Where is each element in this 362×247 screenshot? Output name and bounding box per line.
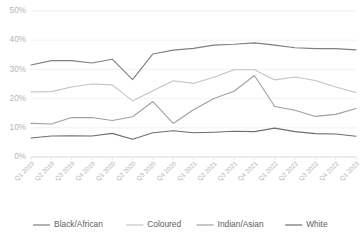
legend-label-indian-asian[interactable]: Indian/Asian xyxy=(218,219,264,229)
gridlines xyxy=(31,11,356,157)
x-axis-tick-label: Q1 2020 xyxy=(94,159,117,182)
x-axis-tick-label: Q3 2020 xyxy=(135,159,158,182)
y-axis-tick-label: 30% xyxy=(10,65,26,74)
y-axis-tick-label: 20% xyxy=(10,94,26,103)
x-axis-tick-label: Q4 2020 xyxy=(155,159,178,182)
x-axis-tick-label: Q2 2022 xyxy=(277,159,300,182)
legend-label-white[interactable]: White xyxy=(306,219,328,229)
chart-legend: Black/AfricanColouredIndian/AsianWhite xyxy=(33,219,328,229)
x-axis-tick-label: Q3 2019 xyxy=(54,159,77,182)
y-axis-tick-label: 50% xyxy=(10,6,26,15)
series-line-white xyxy=(31,128,356,139)
series-line-black-african xyxy=(31,43,356,80)
legend-label-coloured[interactable]: Coloured xyxy=(147,219,181,229)
y-axis-tick-labels: 0%10%20%30%40%50% xyxy=(10,6,26,161)
x-axis-tick-label: Q2 2021 xyxy=(196,159,219,182)
y-axis-tick-label: 10% xyxy=(10,123,26,132)
x-axis-tick-label: Q1 2021 xyxy=(175,159,198,182)
x-axis-tick-label: Q4 2019 xyxy=(74,159,97,182)
chart-canvas: 0%10%20%30%40%50% Q1 2019Q2 2019Q3 2019Q… xyxy=(0,0,362,247)
y-axis-tick-label: 40% xyxy=(10,35,26,44)
x-axis-tick-label: Q1 2023 xyxy=(338,159,361,182)
legend-label-black-african[interactable]: Black/African xyxy=(54,219,103,229)
x-axis-tick-label: Q2 2020 xyxy=(114,159,137,182)
x-axis-tick-label: Q3 2022 xyxy=(297,159,320,182)
line-chart: 0%10%20%30%40%50% Q1 2019Q2 2019Q3 2019Q… xyxy=(0,0,362,247)
series-line-coloured xyxy=(31,70,356,101)
x-axis-tick-label: Q1 2019 xyxy=(13,159,36,182)
x-axis-tick-label: Q1 2022 xyxy=(257,159,280,182)
series-line-indian-asian xyxy=(31,76,356,124)
x-axis-tick-label: Q2 2019 xyxy=(33,159,56,182)
data-series-lines xyxy=(31,43,356,139)
y-axis-tick-label: 0% xyxy=(14,152,26,161)
x-axis-tick-label: Q4 2021 xyxy=(236,159,259,182)
x-axis-tick-label: Q4 2022 xyxy=(318,159,341,182)
x-axis-tick-labels: Q1 2019Q2 2019Q3 2019Q4 2019Q1 2020Q2 20… xyxy=(13,159,361,182)
x-axis-tick-label: Q3 2021 xyxy=(216,159,239,182)
